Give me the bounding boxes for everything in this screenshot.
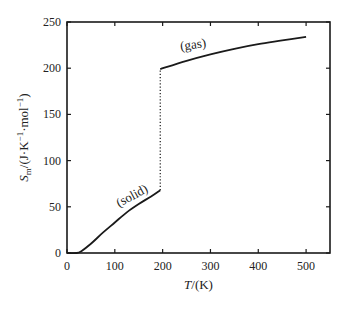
x-tick-label: 400 [249, 259, 267, 273]
series-solid [67, 190, 160, 253]
y-tick-label: 100 [43, 154, 61, 168]
entropy-temperature-chart: 050100150200250 0100200300400500 (solid)… [0, 0, 350, 311]
y-tick-label: 200 [43, 61, 61, 75]
y-tick-label: 250 [43, 15, 61, 29]
y-tick-label: 50 [49, 200, 61, 214]
x-tick-label: 300 [201, 259, 219, 273]
y-axis-title: Sm/(J·K−1·mol−1) [15, 93, 33, 181]
data-series [67, 37, 306, 253]
x-tick-label: 500 [297, 259, 315, 273]
annotation-solid: (solid) [113, 181, 150, 210]
x-tick-label: 100 [106, 259, 124, 273]
y-tick-label: 0 [55, 246, 61, 260]
annotation-gas: (gas) [179, 35, 207, 53]
y-tick-label: 150 [43, 107, 61, 121]
x-tick-label: 0 [64, 259, 70, 273]
x-tick-label: 200 [154, 259, 172, 273]
x-axis-title: T/(K) [184, 277, 213, 292]
